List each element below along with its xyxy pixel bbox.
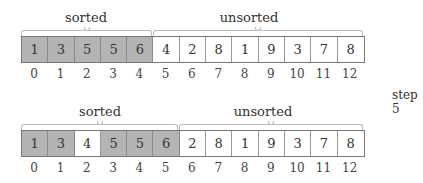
array-cell: 3 bbox=[48, 131, 74, 156]
index-label: 3 bbox=[100, 67, 126, 81]
array-cell: 3 bbox=[285, 131, 311, 156]
array-cell: 5 bbox=[127, 131, 153, 156]
array-cell: 8 bbox=[206, 37, 232, 62]
index-label: 0 bbox=[21, 161, 47, 175]
unsorted-label: unsorted bbox=[220, 10, 279, 25]
array-cell: 9 bbox=[259, 131, 285, 156]
index-label: 9 bbox=[258, 67, 284, 81]
index-label: 12 bbox=[337, 67, 363, 81]
array-cell: 5 bbox=[101, 131, 127, 156]
index-label: 4 bbox=[126, 161, 152, 175]
index-label: 6 bbox=[179, 67, 205, 81]
array-cell: 1 bbox=[22, 131, 48, 156]
array-cell: 8 bbox=[206, 131, 232, 156]
index-label: 10 bbox=[284, 67, 310, 81]
index-label: 2 bbox=[74, 67, 100, 81]
array-cells: 1 3 4 5 5 6 2 8 1 9 3 7 8 bbox=[21, 130, 365, 157]
unsorted-label: unsorted bbox=[234, 104, 293, 119]
index-label: 4 bbox=[126, 67, 152, 81]
array-cell: 2 bbox=[180, 131, 206, 156]
index-label: 5 bbox=[152, 161, 178, 175]
array-cell: 8 bbox=[338, 131, 364, 156]
index-label: 3 bbox=[100, 161, 126, 175]
array-cell: 6 bbox=[127, 37, 153, 62]
array-cell: 7 bbox=[311, 37, 337, 62]
sorted-label: sorted bbox=[79, 104, 121, 119]
array-cell: 2 bbox=[180, 37, 206, 62]
index-label: 2 bbox=[74, 161, 100, 175]
index-label: 0 bbox=[21, 67, 47, 81]
index-label: 1 bbox=[47, 161, 73, 175]
index-label: 6 bbox=[179, 161, 205, 175]
array-cell: 3 bbox=[48, 37, 74, 62]
index-label: 7 bbox=[205, 161, 231, 175]
array-cell: 1 bbox=[232, 37, 258, 62]
array-cell: 5 bbox=[75, 37, 101, 62]
array-cell: 4 bbox=[153, 37, 179, 62]
array-cells: 1 3 5 5 6 4 2 8 1 9 3 7 8 bbox=[21, 36, 365, 63]
index-label: 8 bbox=[231, 161, 257, 175]
index-label: 1 bbox=[47, 67, 73, 81]
array-cell: 5 bbox=[101, 37, 127, 62]
array-cell: 7 bbox=[311, 131, 337, 156]
index-label: 9 bbox=[258, 161, 284, 175]
sorted-label: sorted bbox=[65, 10, 107, 25]
index-label: 10 bbox=[284, 161, 310, 175]
array-cell: 6 bbox=[153, 131, 179, 156]
index-label: 7 bbox=[205, 67, 231, 81]
array-cell: 8 bbox=[338, 37, 364, 62]
index-labels: 0 1 2 3 4 5 6 7 8 9 10 11 12 bbox=[21, 67, 363, 81]
index-label: 8 bbox=[231, 67, 257, 81]
index-label: 11 bbox=[310, 67, 336, 81]
index-label: 5 bbox=[152, 67, 178, 81]
array-cell: 1 bbox=[22, 37, 48, 62]
step-label: step 5 bbox=[392, 88, 423, 116]
array-cell: 1 bbox=[232, 131, 258, 156]
index-labels: 0 1 2 3 4 5 6 7 8 9 10 11 12 bbox=[21, 161, 363, 175]
array-cell: 9 bbox=[259, 37, 285, 62]
array-cell: 3 bbox=[285, 37, 311, 62]
array-cell-inserted: 4 bbox=[75, 131, 101, 156]
index-label: 12 bbox=[337, 161, 363, 175]
index-label: 11 bbox=[310, 161, 336, 175]
